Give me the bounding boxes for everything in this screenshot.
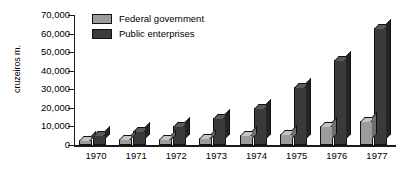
x-axis-label-1974: 1974 xyxy=(237,150,277,161)
bar-1970-federal-government xyxy=(79,140,92,145)
legend-swatch-federal-government xyxy=(92,14,112,24)
bar-1972-federal-government xyxy=(159,139,172,146)
bar-side-face xyxy=(386,19,391,139)
bar-group-1973 xyxy=(199,15,239,145)
y-axis-label: 60,000 xyxy=(6,29,70,39)
bar-side-face xyxy=(306,78,311,139)
legend-label-public-enterprises: Public enterprises xyxy=(119,28,195,39)
bar-side-face xyxy=(185,117,190,139)
legend: Federal government Public enterprises xyxy=(92,12,204,42)
legend-swatch-public-enterprises xyxy=(92,29,112,39)
bar-side-face xyxy=(225,109,230,139)
legend-item-public-enterprises: Public enterprises xyxy=(92,27,204,40)
x-axis-label-1977: 1977 xyxy=(357,150,397,161)
bar-1970-public-enterprises xyxy=(93,135,106,145)
bar-group-1974 xyxy=(240,15,280,145)
x-axis-label-1972: 1972 xyxy=(156,150,196,161)
legend-label-federal-government: Federal government xyxy=(119,13,204,24)
x-axis-label-1976: 1976 xyxy=(317,150,357,161)
bar-chart: cruzeiros m. 010,00020,00030,00040,00050… xyxy=(0,0,402,176)
bar-group-1977 xyxy=(360,15,400,145)
bar-group-1976 xyxy=(320,15,360,145)
y-axis-label: 0 xyxy=(6,140,70,150)
bar-side-face xyxy=(372,112,377,139)
y-axis-label: 50,000 xyxy=(6,47,70,57)
x-axis-label-1970: 1970 xyxy=(76,150,116,161)
x-axis-label-1971: 1971 xyxy=(116,150,156,161)
bar-side-face xyxy=(266,99,271,139)
x-axis-label-1975: 1975 xyxy=(277,150,317,161)
y-axis-label: 40,000 xyxy=(6,66,70,76)
y-axis-label: 70,000 xyxy=(6,10,70,20)
x-axis-baseline xyxy=(74,145,396,147)
bar-1974-federal-government xyxy=(240,135,253,145)
legend-item-federal-government: Federal government xyxy=(92,12,204,25)
bar-1971-federal-government xyxy=(119,139,132,145)
bar-1973-federal-government xyxy=(199,138,212,145)
bar-group-1975 xyxy=(280,15,320,145)
bar-1976-federal-government xyxy=(320,126,333,145)
bar-1975-federal-government xyxy=(280,134,293,145)
y-axis-label: 30,000 xyxy=(6,84,70,94)
bar-side-face xyxy=(346,51,351,139)
bar-side-face xyxy=(145,122,150,139)
bar-1977-federal-government xyxy=(360,121,373,145)
bar-1975-public-enterprises xyxy=(294,87,307,145)
x-axis-label-1973: 1973 xyxy=(196,150,236,161)
y-axis-label: 20,000 xyxy=(6,103,70,113)
y-axis-label: 10,000 xyxy=(6,121,70,131)
bar-side-face xyxy=(105,126,110,139)
